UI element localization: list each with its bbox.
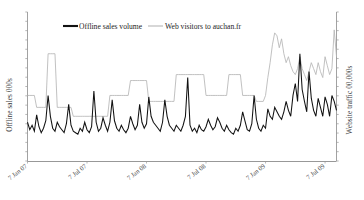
legend-label-offline-sales: Offline sales volume: [79, 22, 143, 31]
left-axis-title: Offline sales 000s: [6, 78, 14, 132]
right-axis-title: Website traffic 00,000s: [346, 65, 354, 134]
chart-container: Offline sales 000s Website traffic 00,00…: [0, 0, 364, 200]
legend-label-web-visitors: Web visitors to auchan.fr: [165, 22, 242, 31]
dual-axis-line-chart: Offline sales 000s Website traffic 00,00…: [0, 0, 364, 200]
